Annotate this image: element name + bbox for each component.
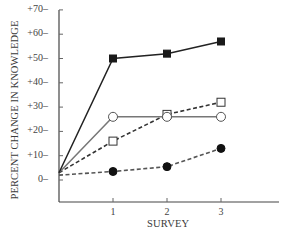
y-tick-label: 0– (14, 173, 48, 184)
open-square-marker (109, 137, 117, 145)
series-line-open-square-dashed (59, 102, 221, 172)
x-axis-label: SURVEY (147, 218, 189, 229)
open-circle-marker (163, 112, 172, 121)
open-circle-marker (217, 112, 226, 121)
filled-square-marker (218, 38, 225, 45)
series-line-filled-circle-dashed (59, 148, 221, 175)
x-tick-label: 1 (107, 206, 119, 217)
y-tick-label: +10– (14, 149, 48, 160)
chart: PERCENT CHANGE IN KNOWLEDGE SURVEY +70–+… (0, 0, 290, 239)
y-tick-label: +60– (14, 27, 48, 38)
y-tick-label: +40– (14, 76, 48, 87)
x-tick-label: 3 (215, 206, 227, 217)
filled-circle-marker (109, 167, 117, 175)
filled-circle-marker (217, 144, 225, 152)
x-tick-label: 2 (161, 206, 173, 217)
filled-circle-marker (163, 163, 171, 171)
y-tick-label: +20– (14, 124, 48, 135)
series-line-open-circle-solid (59, 117, 221, 173)
filled-square-marker (164, 50, 171, 57)
y-tick-label: +50– (14, 52, 48, 63)
filled-square-marker (110, 55, 117, 62)
y-tick-label: +70– (14, 3, 48, 14)
y-tick-label: +30– (14, 100, 48, 111)
open-square-marker (217, 98, 225, 106)
open-circle-marker (109, 112, 118, 121)
